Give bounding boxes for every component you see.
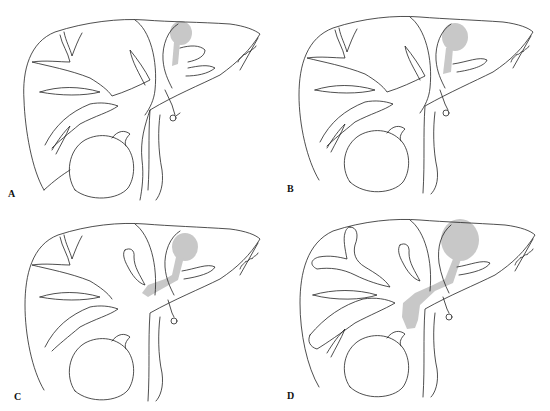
panel-b: B [275, 0, 550, 205]
vessel-branches [32, 32, 215, 200]
lesion-shading [442, 23, 468, 74]
liver-outline [24, 20, 260, 191]
liver-diagram-a [0, 0, 275, 205]
panel-label-c: C [14, 391, 21, 402]
panel-a: A [0, 0, 275, 205]
gallbladder-stomach [344, 331, 408, 396]
lesion-shading [402, 219, 479, 329]
vessel-branches [307, 28, 487, 194]
panel-label-b: B [287, 183, 294, 194]
liver-diagram-d [275, 205, 550, 410]
panel-c: C [0, 205, 275, 410]
signature-icon [511, 46, 529, 62]
gallbladder-stomach [69, 131, 133, 198]
panel-label-d: D [287, 390, 294, 401]
gallbladder-stomach [69, 334, 133, 400]
signature-icon [238, 46, 256, 62]
liver-outline [25, 223, 260, 401]
panel-d: D [275, 205, 550, 410]
gallbladder-stomach [344, 126, 408, 191]
liver-outline [299, 16, 533, 193]
liver-diagram-c [0, 205, 275, 410]
liver-diagram-b [275, 0, 550, 205]
panel-label-a: A [8, 188, 15, 199]
